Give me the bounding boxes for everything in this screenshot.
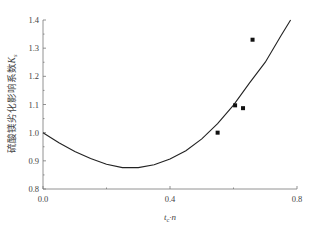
y-tick-label: 1.2 [28,71,39,81]
y-axis-label: 硫酸镁劣化影响系数Ks [6,54,18,153]
y-tick-label: 1.0 [28,128,39,138]
chart-svg: 0.80.91.01.11.21.31.40.00.40.8 硫酸镁劣化影响系数… [0,0,310,232]
plot-area [43,20,291,168]
x-tick-label: 0.8 [292,194,303,204]
fitted-curve [43,20,291,168]
y-tick-label: 0.9 [28,156,39,166]
chart: 0.80.91.01.11.21.31.40.00.40.8 硫酸镁劣化影响系数… [0,0,310,232]
x-axis-label: tc·n [164,212,177,223]
x-tick-label: 0.0 [38,194,49,204]
tick-labels: 0.80.91.01.11.21.31.40.00.40.8 [28,15,302,204]
data-point-marker [241,106,245,110]
data-point-marker [251,38,255,42]
x-tick-label: 0.4 [165,194,176,204]
axes [43,20,297,189]
y-tick-label: 1.1 [28,100,39,110]
y-tick-label: 1.4 [28,15,39,25]
y-tick-label: 1.3 [28,43,39,53]
y-tick-label: 0.8 [28,184,39,194]
data-point-marker [233,103,237,107]
data-point-marker [216,131,220,135]
